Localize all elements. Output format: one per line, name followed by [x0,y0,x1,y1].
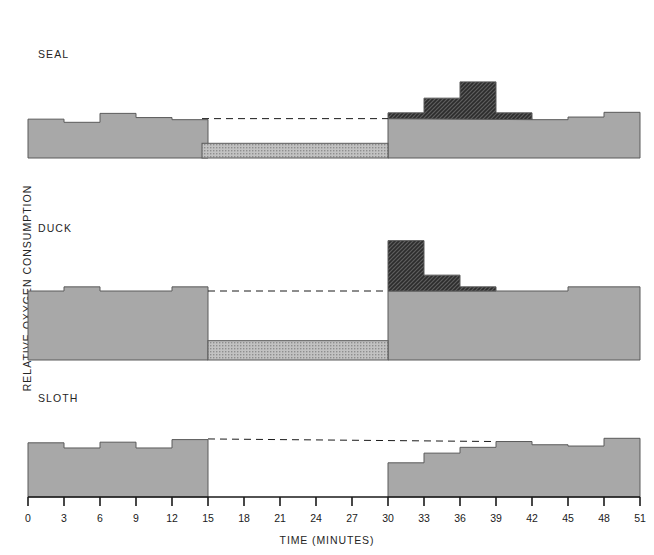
x-tick-label-33: 33 [412,512,436,524]
x-tick-label-45: 45 [556,512,580,524]
x-tick-label-6: 6 [88,512,112,524]
x-tick-label-12: 12 [160,512,184,524]
panel-title-duck: DUCK [38,222,72,234]
oxygen-consumption-figure: RELATIVE OXYGEN CONSUMPTION SEAL DUCK SL… [0,0,654,555]
x-tick-label-39: 39 [484,512,508,524]
panel-title-seal: SEAL [38,48,69,60]
x-tick-label-21: 21 [268,512,292,524]
x-tick-label-48: 48 [592,512,616,524]
x-tick-label-36: 36 [448,512,472,524]
x-tick-label-51: 51 [628,512,652,524]
panel-title-sloth: SLOTH [38,392,79,404]
x-tick-label-18: 18 [232,512,256,524]
x-tick-label-3: 3 [52,512,76,524]
x-tick-label-30: 30 [376,512,400,524]
x-tick-label-0: 0 [16,512,40,524]
x-tick-label-15: 15 [196,512,220,524]
x-tick-label-42: 42 [520,512,544,524]
x-tick-label-9: 9 [124,512,148,524]
x-axis-label: TIME (MINUTES) [0,534,654,546]
chart-plot-area [0,0,654,555]
x-tick-label-27: 27 [340,512,364,524]
x-tick-label-24: 24 [304,512,328,524]
